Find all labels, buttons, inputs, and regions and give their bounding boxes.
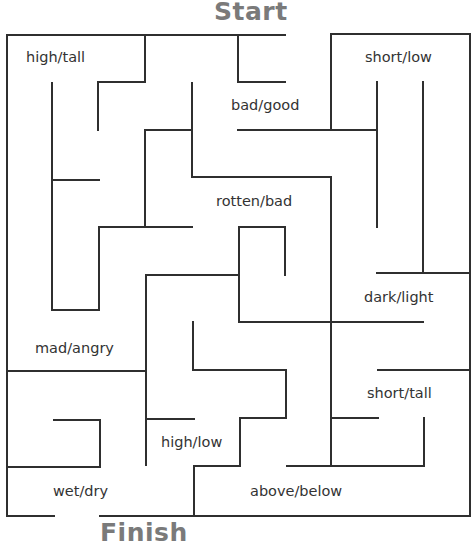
word-pair-high-tall: high/tall xyxy=(26,49,85,65)
finish-label: Finish xyxy=(100,518,188,547)
word-pair-wet-dry: wet/dry xyxy=(53,483,108,499)
word-pair-rotten-bad: rotten/bad xyxy=(216,193,292,209)
maze-walls xyxy=(0,0,475,551)
word-pair-mad-angry: mad/angry xyxy=(35,340,114,356)
word-pair-high-low: high/low xyxy=(161,434,222,450)
word-pair-short-low: short/low xyxy=(365,49,432,65)
word-pair-bad-good: bad/good xyxy=(231,97,299,113)
word-pair-above-below: above/below xyxy=(250,483,342,499)
word-pair-short-tall: short/tall xyxy=(367,385,432,401)
word-pair-dark-light: dark/light xyxy=(364,289,433,305)
